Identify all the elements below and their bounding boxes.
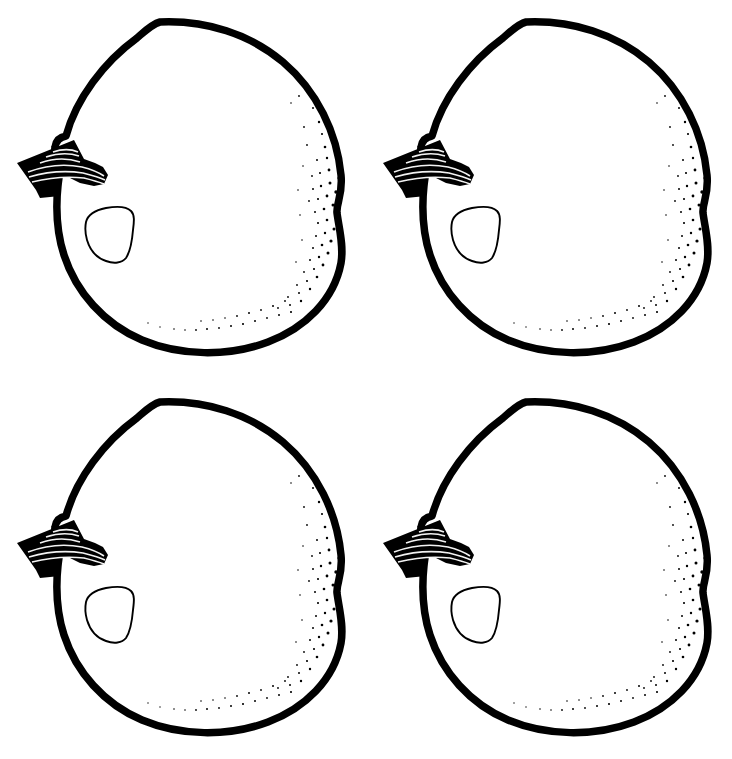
- apple-figure-top-left: [0, 0, 366, 379]
- coloring-sheet-canvas: [0, 0, 732, 759]
- apple-figure-top-right: [366, 0, 732, 379]
- apple-body-outline: [421, 22, 708, 353]
- apple-body-outline: [421, 402, 708, 733]
- apple-body-outline: [55, 22, 342, 353]
- apple-body-outline: [55, 402, 342, 733]
- apple-figure-bottom-right: [366, 380, 732, 759]
- apple-figure-bottom-left: [0, 380, 366, 759]
